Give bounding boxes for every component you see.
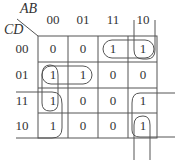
cell-01-01: 1: [68, 62, 98, 88]
cell-00-00: 0: [38, 36, 68, 62]
cell-11-00: 1: [38, 88, 68, 114]
cell-10-10: 1: [128, 113, 158, 139]
cell-00-10: 1: [128, 36, 158, 62]
cell-10-01: 0: [68, 113, 98, 139]
cell-11-01: 0: [68, 88, 98, 114]
cell-01-10: 0: [128, 62, 158, 88]
cell-00-11: 1: [98, 36, 128, 62]
cell-10-00: 1: [38, 113, 68, 139]
cell-11-11: 0: [98, 88, 128, 114]
cell-11-10: 1: [128, 88, 158, 114]
cell-01-11: 0: [98, 62, 128, 88]
cell-00-01: 0: [68, 36, 98, 62]
cell-01-00: 1: [38, 62, 68, 88]
cell-10-11: 0: [98, 113, 128, 139]
